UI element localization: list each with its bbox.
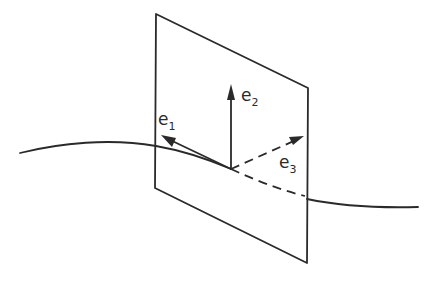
curve-inside-solid [156,146,231,169]
vector-e1-arrowhead-icon [161,135,176,147]
vector-e2-arrowhead-icon [227,84,235,100]
curve-right [307,199,418,207]
vector-e3-arrowhead-icon [289,136,304,145]
vector-e1-shaft [166,138,231,169]
frame-diagram: e1 e2 e3 [0,0,429,286]
label-e1: e1 [158,109,175,133]
label-e3: e3 [279,152,296,176]
curve-left [20,142,156,153]
label-e2: e2 [241,85,258,109]
